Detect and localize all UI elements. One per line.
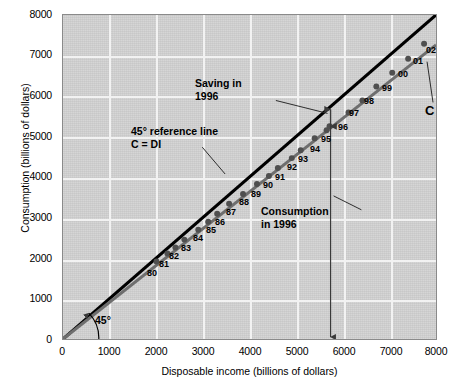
- x-tick-4000: 4000: [226, 345, 274, 357]
- point-label-80: 80: [147, 268, 157, 278]
- saving-leader-line: [276, 100, 328, 113]
- consumption-leader-line: [334, 196, 362, 210]
- point-label-99: 99: [382, 83, 392, 93]
- point-label-98: 98: [364, 96, 374, 106]
- y-tick-0: 0: [8, 333, 52, 345]
- point-label-01: 01: [413, 56, 423, 66]
- data-point-86: [214, 211, 220, 217]
- x-tick-2000: 2000: [132, 345, 180, 357]
- annotation-curve-label-C: C: [425, 103, 434, 118]
- data-point-82: [172, 245, 178, 251]
- point-label-96: 96: [338, 122, 348, 132]
- data-point-87: [226, 201, 232, 207]
- point-label-94: 94: [310, 144, 320, 154]
- annotation-reference-line1: 45° reference line: [131, 125, 218, 138]
- data-point-96: [327, 123, 333, 129]
- point-label-81: 81: [159, 259, 169, 269]
- point-label-93: 93: [298, 154, 308, 164]
- reference-leader-line: [202, 147, 225, 174]
- data-point-92: [289, 155, 295, 161]
- data-point-00: [389, 70, 395, 76]
- annotation-reference-line: 45° reference line C = DI: [131, 125, 218, 151]
- x-tick-6000: 6000: [320, 345, 368, 357]
- y-tick-1000: 1000: [8, 292, 52, 304]
- point-label-84: 84: [193, 233, 203, 243]
- annotation-angle-45: 45°: [95, 314, 111, 326]
- annotation-consumption-line1: Consumption: [261, 205, 329, 218]
- point-label-89: 89: [251, 189, 261, 199]
- y-tick-8000: 8000: [8, 8, 52, 20]
- consumption-line: [63, 45, 436, 339]
- plot-area: 80 81 82 83 84 85 86 87 88 89 90 91 92 9…: [62, 14, 437, 340]
- chart-graphics-layer: [63, 15, 436, 339]
- point-label-95: 95: [321, 134, 331, 144]
- x-tick-7000: 7000: [367, 345, 415, 357]
- annotation-saving-line2: 1996: [195, 90, 242, 103]
- data-point-01: [405, 56, 411, 62]
- x-tick-5000: 5000: [273, 345, 321, 357]
- y-axis-title: Consumption (billions of dollars): [19, 38, 31, 278]
- point-label-87: 87: [226, 207, 236, 217]
- consumption-function-chart: 8000 7000 6000 5000 4000 3000 2000 1000 …: [0, 0, 455, 385]
- annotation-consumption-1996: Consumption in 1996: [261, 205, 329, 231]
- curve-label-leader-line: [427, 62, 433, 103]
- data-point-93: [298, 147, 304, 153]
- data-point-85: [205, 219, 211, 225]
- data-point-99: [373, 84, 379, 90]
- data-point-84: [195, 227, 201, 233]
- annotation-saving-line1: Saving in: [195, 77, 242, 90]
- point-label-90: 90: [263, 180, 273, 190]
- data-point-89: [254, 181, 260, 187]
- x-tick-0: 0: [38, 345, 86, 357]
- data-point-90: [266, 173, 272, 179]
- data-point-88: [240, 191, 246, 197]
- data-point-91: [275, 165, 281, 171]
- x-tick-3000: 3000: [179, 345, 227, 357]
- annotation-saving-1996: Saving in 1996: [195, 77, 242, 103]
- point-label-83: 83: [181, 243, 191, 253]
- data-point-83: [181, 237, 187, 243]
- x-tick-1000: 1000: [85, 345, 133, 357]
- point-label-91: 91: [275, 172, 285, 182]
- point-label-82: 82: [169, 251, 179, 261]
- reference-line-45deg: [63, 15, 436, 339]
- x-axis-title: Disposable income (billions of dollars): [62, 365, 437, 377]
- point-label-97: 97: [349, 108, 359, 118]
- point-label-92: 92: [287, 162, 297, 172]
- annotation-consumption-line2: in 1996: [261, 218, 329, 231]
- point-label-88: 88: [239, 197, 249, 207]
- data-point-group: [154, 41, 428, 265]
- point-label-02: 02: [426, 45, 436, 55]
- point-label-86: 86: [215, 217, 225, 227]
- data-point-94: [312, 135, 318, 141]
- point-label-00: 00: [398, 69, 408, 79]
- annotation-reference-line2: C = DI: [131, 138, 218, 151]
- x-tick-8000: 8000: [412, 345, 455, 357]
